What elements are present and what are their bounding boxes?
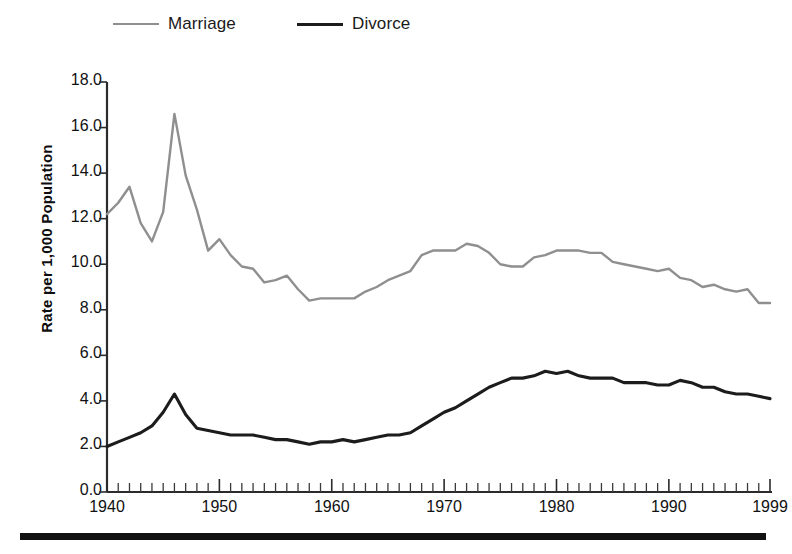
series-line-divorce — [107, 371, 770, 446]
x-axis-ticks — [107, 479, 770, 492]
y-axis-ticks — [99, 82, 107, 492]
series-line-marriage — [107, 114, 770, 303]
bottom-divider-rule — [20, 533, 766, 540]
